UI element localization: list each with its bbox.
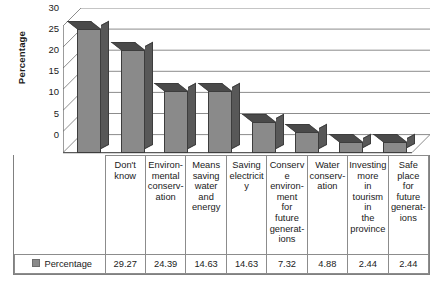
bar-7	[383, 142, 407, 152]
bar-side-face	[232, 83, 240, 149]
bar-front-face	[252, 122, 276, 153]
category-cell: Don'tknow	[105, 156, 145, 255]
bar-front-face	[164, 91, 188, 153]
bar-front-face	[295, 132, 319, 153]
category-cell: Environ-mentalconserv-ation	[145, 156, 185, 255]
bar-front-face	[339, 142, 363, 152]
y-tick-30: 30	[48, 3, 59, 13]
series-name-label: Percentage	[44, 259, 92, 269]
value-cell: 4.88	[307, 255, 347, 274]
plot-area: 30 25 20 15 10 5 0	[63, 8, 430, 155]
bar-chart-figure: Percentage	[0, 0, 445, 287]
category-cell: Waterconserv-ation	[307, 156, 347, 255]
category-cell: Savingelectricity	[226, 156, 266, 255]
bar-1	[121, 50, 145, 153]
bar-front-face	[121, 50, 145, 153]
y-tick-25: 25	[48, 24, 59, 34]
category-row: Don'tknowEnviron-mentalconserv-ationMean…	[15, 156, 429, 255]
data-table: Don'tknowEnviron-mentalconserv-ationMean…	[13, 155, 430, 275]
bar-side-face	[145, 41, 153, 148]
y-tick-10: 10	[48, 88, 59, 98]
bar-3	[208, 91, 232, 153]
value-cell: 24.39	[145, 255, 185, 274]
category-cell: Conserveenviron-mentforfuturegenerat-ion…	[267, 156, 307, 255]
plot-grid-svg	[63, 8, 430, 155]
category-cell: Meanssavingwaterandenergy	[186, 156, 226, 255]
y-tick-20: 20	[48, 45, 59, 55]
category-cell: Investingmoreintourismintheprovince	[348, 156, 388, 255]
legend-swatch-icon	[32, 259, 40, 267]
bar-side-face	[101, 21, 109, 149]
value-cell: 2.44	[388, 255, 428, 274]
series-legend-cell: Percentage	[15, 255, 106, 274]
bar-4	[252, 122, 276, 153]
bar-6	[339, 142, 363, 152]
bar-2	[164, 91, 188, 153]
value-cell: 29.27	[105, 255, 145, 274]
bar-front-face	[383, 142, 407, 152]
category-cell: Safeplaceforfuturegenerat-ions	[388, 156, 428, 255]
value-cell: 14.63	[186, 255, 226, 274]
y-axis-title: Percentage	[16, 13, 27, 103]
bar-side-face	[188, 83, 196, 149]
table-corner-cell	[15, 156, 106, 255]
y-tick-5: 5	[54, 109, 59, 119]
bar-side-face	[276, 113, 284, 148]
bar-0	[77, 29, 101, 153]
bar-5	[295, 132, 319, 153]
value-cell: 14.63	[226, 255, 266, 274]
bar-front-face	[77, 29, 101, 153]
y-tick-15: 15	[48, 67, 59, 77]
value-cell: 7.32	[267, 255, 307, 274]
y-tick-0: 0	[54, 130, 59, 140]
bar-front-face	[208, 91, 232, 153]
value-row: Percentage 29.2724.3914.6314.637.324.882…	[15, 255, 429, 274]
value-cell: 2.44	[348, 255, 388, 274]
